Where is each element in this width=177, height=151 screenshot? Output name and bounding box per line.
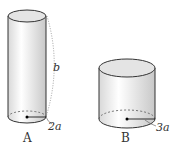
cylinder-a <box>8 10 54 124</box>
radius-label-b: 3a <box>156 121 170 134</box>
radius-label-a: 2a <box>48 120 62 133</box>
cylinders-diagram <box>0 0 177 151</box>
label-b: B <box>121 131 130 145</box>
height-label-a: b <box>53 61 60 74</box>
cylinder-b <box>99 59 156 128</box>
label-a: A <box>23 131 32 145</box>
